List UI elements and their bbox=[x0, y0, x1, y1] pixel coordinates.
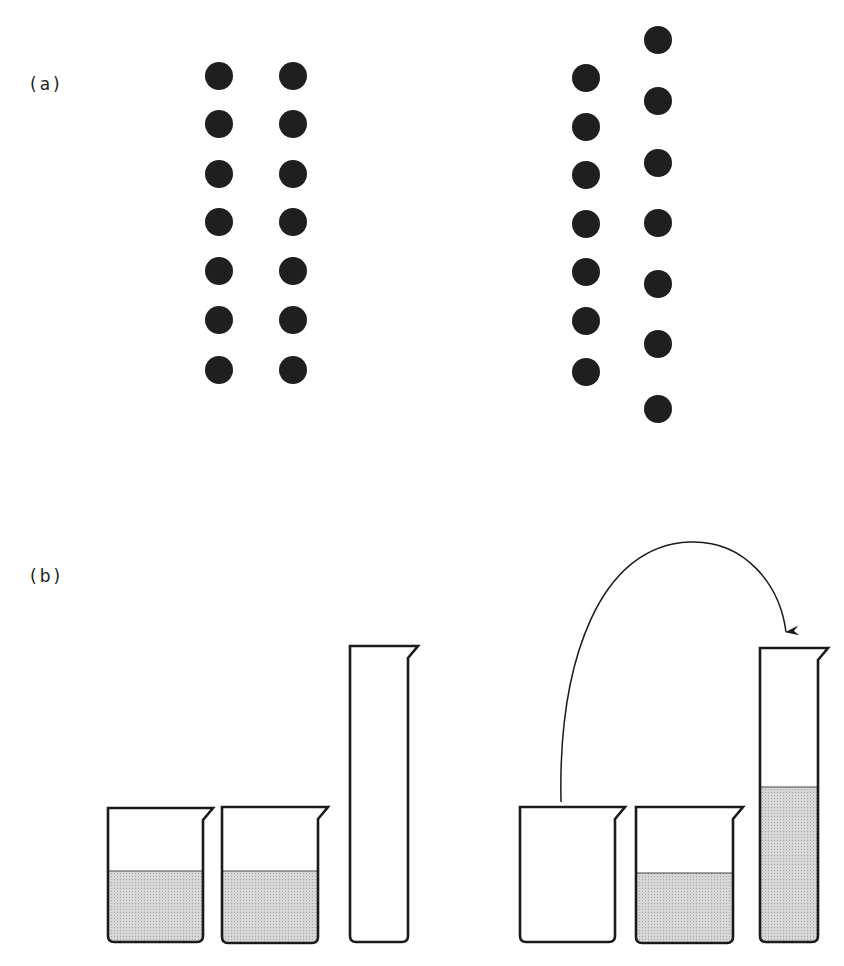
dot bbox=[205, 62, 233, 90]
panel-b-vessels bbox=[108, 646, 828, 943]
dot bbox=[644, 149, 672, 177]
liquid bbox=[223, 871, 317, 942]
dot bbox=[279, 208, 307, 236]
dot bbox=[644, 87, 672, 115]
beaker bbox=[636, 807, 743, 943]
liquid bbox=[761, 787, 817, 941]
liquid bbox=[109, 871, 202, 941]
dot bbox=[644, 395, 672, 423]
dot bbox=[279, 110, 307, 138]
graduated-cylinder bbox=[760, 648, 828, 942]
dot bbox=[644, 330, 672, 358]
dot bbox=[572, 161, 600, 189]
liquid bbox=[637, 873, 732, 942]
dot bbox=[572, 210, 600, 238]
dot bbox=[279, 306, 307, 334]
dot bbox=[205, 208, 233, 236]
dot bbox=[572, 258, 600, 286]
dot bbox=[205, 306, 233, 334]
dot bbox=[279, 257, 307, 285]
dot bbox=[572, 64, 600, 92]
beaker bbox=[108, 808, 213, 942]
beaker bbox=[520, 807, 625, 942]
dot bbox=[644, 270, 672, 298]
dot bbox=[279, 160, 307, 188]
dot bbox=[572, 113, 600, 141]
dot bbox=[644, 26, 672, 54]
beaker bbox=[222, 807, 328, 943]
diagram-canvas bbox=[0, 0, 844, 966]
transfer-arrow bbox=[561, 542, 786, 802]
panel-a-dots bbox=[205, 26, 672, 423]
dot bbox=[205, 257, 233, 285]
dot bbox=[205, 110, 233, 138]
dot bbox=[644, 209, 672, 237]
dot bbox=[205, 356, 233, 384]
dot bbox=[279, 356, 307, 384]
dot bbox=[205, 160, 233, 188]
graduated-cylinder bbox=[350, 646, 418, 942]
dot bbox=[572, 358, 600, 386]
dot bbox=[572, 307, 600, 335]
dot bbox=[279, 62, 307, 90]
